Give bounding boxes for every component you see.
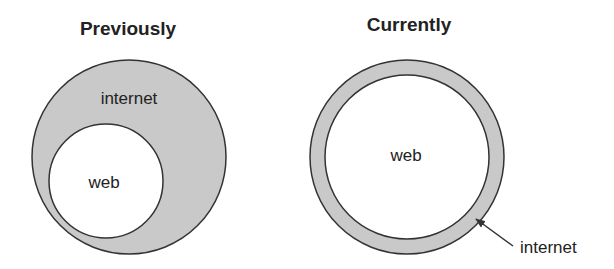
panel-title-currently: Currently: [367, 14, 452, 35]
internet-label: internet: [101, 89, 158, 108]
internet-callout-label: internet: [520, 238, 577, 257]
web-label: web: [87, 173, 119, 192]
panel-previously: Previously internet web: [32, 18, 226, 254]
panel-currently: Currently web internet: [310, 14, 577, 257]
callout-arrow-icon: [476, 219, 513, 246]
web-label: web: [389, 146, 421, 165]
panel-title-previously: Previously: [80, 18, 177, 39]
venn-comparison-diagram: Previously internet web Currently web in…: [0, 0, 614, 269]
